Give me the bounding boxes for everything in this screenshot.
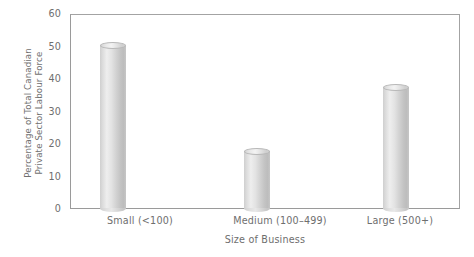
bar-body bbox=[244, 151, 270, 208]
bar-body bbox=[383, 88, 409, 208]
x-axis-title: Size of Business bbox=[70, 234, 460, 245]
x-tick-label-large: Large (500+) bbox=[310, 215, 474, 229]
bar-large bbox=[383, 88, 409, 208]
bar-medium bbox=[244, 151, 270, 208]
plot-area bbox=[70, 14, 460, 209]
bar-body bbox=[100, 46, 126, 209]
bar-top-ellipse bbox=[100, 42, 126, 49]
bar-chart: Percentage of Total Canadian Private Sec… bbox=[0, 0, 474, 257]
y-tick-label: 20 bbox=[0, 138, 70, 150]
y-tick-label: 40 bbox=[0, 73, 70, 85]
y-tick-label: 0 bbox=[0, 203, 70, 215]
bar-top-ellipse bbox=[244, 148, 270, 155]
y-tick-label: 30 bbox=[0, 106, 70, 118]
y-tick-label: 60 bbox=[0, 8, 70, 20]
y-tick-label: 10 bbox=[0, 171, 70, 183]
y-tick-label: 50 bbox=[0, 41, 70, 53]
bar-small bbox=[100, 46, 126, 209]
